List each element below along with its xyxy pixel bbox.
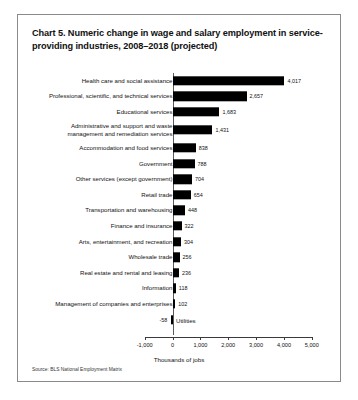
bar-value-label: 118 bbox=[179, 285, 188, 291]
bar bbox=[171, 315, 173, 324]
bar-track: 256 bbox=[173, 249, 340, 265]
x-axis-tick-label: 1,000 bbox=[193, 342, 207, 348]
bar-row: Professional, scientific, and technical … bbox=[18, 89, 340, 105]
x-axis: -1,000 0 1,000 2,000 3,000 4,000 5,000 bbox=[18, 337, 340, 355]
x-axis-tick bbox=[228, 337, 229, 340]
bar-track: 304 bbox=[173, 234, 340, 250]
category-label: Professional, scientific, and technical … bbox=[33, 93, 173, 101]
bar bbox=[173, 125, 213, 134]
bar-row: Administrative and support and waste man… bbox=[18, 120, 340, 141]
bar-track: 448 bbox=[173, 203, 340, 219]
bar-row: Real estate and rental and leasing 236 bbox=[18, 265, 340, 281]
category-label: Information bbox=[33, 285, 173, 293]
x-axis-tick-label: 5,000 bbox=[305, 342, 319, 348]
category-label: Administrative and support and waste man… bbox=[33, 122, 173, 137]
category-label: Accommodation and food services bbox=[33, 144, 173, 152]
bar-row: Government 788 bbox=[18, 156, 340, 172]
bar-row: Transportation and warehousing 448 bbox=[18, 203, 340, 219]
bar bbox=[173, 107, 220, 116]
x-axis-title: Thousands of jobs bbox=[18, 356, 340, 363]
category-label: Utilities bbox=[176, 316, 196, 323]
chart-plot-area: Health care and social assistance 4,017 … bbox=[18, 73, 340, 335]
bar-row: Information 118 bbox=[18, 281, 340, 297]
bar-row: Finance and insurance 322 bbox=[18, 218, 340, 234]
x-axis-tick bbox=[200, 337, 201, 340]
chart-title: Chart 5. Numeric change in wage and sala… bbox=[32, 27, 328, 53]
category-label: Wholesale trade bbox=[33, 253, 173, 261]
bar-value-label: 236 bbox=[182, 270, 191, 276]
x-axis-tick-label: 2,000 bbox=[221, 342, 235, 348]
bar-track: 1,431 bbox=[173, 120, 340, 141]
bar bbox=[173, 92, 247, 101]
bar-track: 654 bbox=[173, 187, 340, 203]
bar-track: 2,657 bbox=[173, 89, 340, 105]
category-label: Government bbox=[33, 160, 173, 168]
x-axis-tick bbox=[284, 337, 285, 340]
x-axis-tick bbox=[256, 337, 257, 340]
bar-value-label: 788 bbox=[198, 161, 207, 167]
source-note: Source: BLS National Employment Matrix bbox=[32, 367, 122, 372]
category-label: Finance and insurance bbox=[33, 222, 173, 230]
category-label: Real estate and rental and leasing bbox=[33, 269, 173, 277]
x-axis-tick-label: 3,000 bbox=[249, 342, 263, 348]
bar-track: 838 bbox=[173, 140, 340, 156]
bar bbox=[173, 76, 285, 85]
x-axis-tick bbox=[173, 337, 174, 340]
bar-value-label: 1,683 bbox=[222, 109, 236, 115]
bar bbox=[173, 206, 186, 215]
bar-row: Arts, entertainment, and recreation 304 bbox=[18, 234, 340, 250]
bar-value-label: 4,017 bbox=[287, 78, 301, 84]
bar-value-label: 838 bbox=[199, 145, 208, 151]
bar-row: Accommodation and food services 838 bbox=[18, 140, 340, 156]
bar-value-label: 2,657 bbox=[250, 93, 264, 99]
bar bbox=[173, 268, 180, 277]
bar-value-label: -58 bbox=[160, 317, 168, 323]
bar-value-label: 102 bbox=[178, 301, 187, 307]
bar bbox=[173, 143, 196, 152]
x-axis-tick-label: 0 bbox=[171, 342, 174, 348]
bar-value-label: 654 bbox=[194, 192, 203, 198]
bar-value-label: 1,431 bbox=[215, 127, 229, 133]
bar-track: -58 Utilities bbox=[173, 312, 340, 328]
category-label: Retail trade bbox=[33, 191, 173, 199]
category-label: Transportation and warehousing bbox=[33, 207, 173, 215]
bar bbox=[173, 190, 191, 199]
category-label: Management of companies and enterprises bbox=[33, 300, 173, 308]
bar-row: Other services (except government) 704 bbox=[18, 171, 340, 187]
bar-value-label: 304 bbox=[184, 239, 193, 245]
bar bbox=[173, 299, 176, 308]
category-label: Arts, entertainment, and recreation bbox=[33, 238, 173, 246]
bar-track: 4,017 bbox=[173, 73, 340, 89]
bar-row: Health care and social assistance 4,017 bbox=[18, 73, 340, 89]
chart-card: Chart 5. Numeric change in wage and sala… bbox=[17, 14, 341, 382]
x-axis-tick bbox=[145, 337, 146, 340]
bar-value-label: 704 bbox=[195, 176, 204, 182]
x-axis-tick-label: -1,000 bbox=[137, 342, 153, 348]
x-axis-tick bbox=[312, 337, 313, 340]
bar-row: Wholesale trade 256 bbox=[18, 249, 340, 265]
category-label: Other services (except government) bbox=[33, 175, 173, 183]
bar-track: 1,683 bbox=[173, 104, 340, 120]
bar-track: 118 bbox=[173, 281, 340, 297]
bar-track: 788 bbox=[173, 156, 340, 172]
bar-row: -58 Utilities bbox=[18, 312, 340, 328]
bar-value-label: 256 bbox=[183, 254, 192, 260]
category-label: Educational services bbox=[33, 108, 173, 116]
bar-row: Retail trade 654 bbox=[18, 187, 340, 203]
x-axis-tick-label: 4,000 bbox=[277, 342, 291, 348]
bar-track: 322 bbox=[173, 218, 340, 234]
bar-value-label: 448 bbox=[188, 207, 197, 213]
category-label: Health care and social assistance bbox=[33, 77, 173, 85]
bar-track: 704 bbox=[173, 171, 340, 187]
bar bbox=[173, 159, 195, 168]
bar bbox=[173, 175, 193, 184]
bar-track: 102 bbox=[173, 296, 340, 312]
bar-row: Educational services 1,683 bbox=[18, 104, 340, 120]
bar bbox=[173, 237, 182, 246]
bar-track: 236 bbox=[173, 265, 340, 281]
bar bbox=[173, 221, 182, 230]
bar bbox=[173, 253, 180, 262]
bar bbox=[173, 284, 176, 293]
bar-row: Management of companies and enterprises … bbox=[18, 296, 340, 312]
bar-value-label: 322 bbox=[185, 223, 194, 229]
